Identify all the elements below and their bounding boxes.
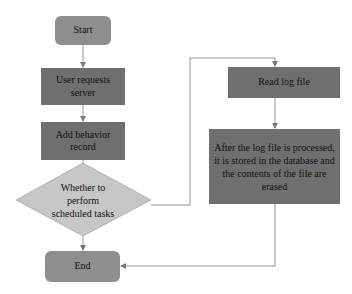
start-label: Start <box>74 24 93 37</box>
add-behavior-record-label: Add behavior record <box>53 129 113 154</box>
decision-label: Whether to perform scheduled tasks <box>46 181 120 220</box>
store-and-erase-label: After the log file is processed, it is s… <box>213 141 336 193</box>
user-requests-node: User requests server <box>41 68 125 105</box>
add-behavior-record-node: Add behavior record <box>41 122 125 160</box>
end-node: End <box>45 251 120 282</box>
read-log-file-node: Read log file <box>228 67 340 98</box>
start-node: Start <box>55 16 111 45</box>
decision-node: Whether to perform scheduled tasks <box>46 168 120 232</box>
edge-store-erase-to-end <box>121 204 275 266</box>
store-and-erase-node: After the log file is processed, it is s… <box>209 129 340 204</box>
flowchart: Start User requests server Add behavior … <box>0 0 352 294</box>
user-requests-label: User requests server <box>55 74 111 99</box>
read-log-file-label: Read log file <box>258 76 310 89</box>
end-label: End <box>74 260 90 273</box>
